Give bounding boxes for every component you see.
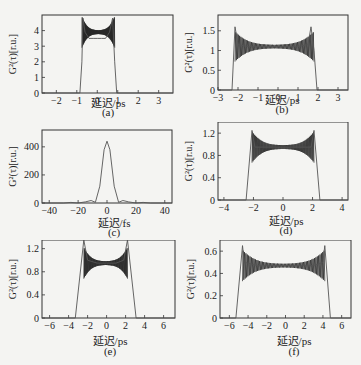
svg-text:3: 3 [336, 92, 341, 103]
svg-text:0: 0 [283, 320, 288, 331]
caption-a: (a) [78, 106, 138, 118]
svg-text:400: 400 [24, 141, 39, 152]
svg-text:4: 4 [340, 202, 345, 213]
svg-text:200: 200 [24, 169, 39, 180]
svg-text:6: 6 [161, 320, 166, 331]
svg-text:0: 0 [34, 313, 39, 324]
caption-e: (e) [80, 345, 140, 357]
svg-text:0: 0 [34, 198, 39, 209]
svg-text:1: 1 [34, 72, 39, 83]
svg-text:0.8: 0.8 [203, 150, 216, 161]
svg-text:−6: −6 [224, 320, 235, 331]
svg-text:0.2: 0.2 [205, 290, 218, 301]
svg-text:0.4: 0.4 [205, 268, 218, 279]
svg-text:−2: −2 [82, 320, 93, 331]
svg-text:−2: −2 [51, 95, 62, 106]
svg-text:4: 4 [320, 320, 325, 331]
panel-b: −3−2−1012300.511.5G²(τ)[r.u.] 延迟/ps (b) [180, 0, 361, 122]
svg-text:3: 3 [156, 95, 161, 106]
panel-d: −4−202400.40.81.2G²(τ)[r.u.] 延迟/ps (d) [180, 122, 361, 240]
svg-text:1.2: 1.2 [203, 128, 216, 139]
svg-text:1: 1 [210, 45, 215, 56]
svg-text:0.4: 0.4 [27, 289, 40, 300]
panel-a: −2−1012301234G²(τ)[r.u.] 延迟/ps (a) [0, 0, 180, 122]
svg-text:−4: −4 [219, 202, 230, 213]
svg-text:2: 2 [34, 56, 39, 67]
svg-text:2: 2 [123, 320, 128, 331]
svg-text:2: 2 [302, 320, 307, 331]
caption-b: (b) [252, 103, 312, 115]
svg-text:1.2: 1.2 [27, 243, 40, 254]
svg-text:0: 0 [210, 195, 215, 206]
panel-f: −6−4−2024600.20.40.6G²(τ)[r.u.] 延迟/ps (f… [180, 240, 361, 365]
svg-text:−2: −2 [261, 320, 272, 331]
svg-text:−4: −4 [63, 320, 74, 331]
svg-text:−4: −4 [243, 320, 254, 331]
svg-text:G²(τ)[r.u.]: G²(τ)[r.u.] [7, 34, 19, 74]
caption-c: (c) [84, 226, 144, 238]
caption-f: (f) [264, 345, 324, 357]
svg-text:0.5: 0.5 [203, 65, 216, 76]
svg-text:G²(τ)[r.u.]: G²(τ)[r.u.] [7, 259, 19, 299]
panel-e: −6−4−2024600.40.81.2G²(τ)[r.u.] 延迟/ps (e… [0, 240, 180, 365]
svg-text:0.4: 0.4 [203, 172, 216, 183]
svg-text:4: 4 [142, 320, 147, 331]
svg-text:40: 40 [160, 205, 170, 216]
svg-text:0: 0 [210, 85, 215, 96]
svg-text:G²(τ)[r.u.]: G²(τ)[r.u.] [185, 259, 197, 299]
svg-text:G²(τ)[r.u.]: G²(τ)[r.u.] [183, 141, 195, 181]
svg-text:G²(τ)[r.u.]: G²(τ)[r.u.] [183, 32, 195, 72]
svg-text:6: 6 [339, 320, 344, 331]
caption-d: (d) [256, 224, 316, 236]
svg-text:0.6: 0.6 [205, 246, 218, 257]
svg-text:0: 0 [212, 313, 217, 324]
svg-text:3: 3 [34, 41, 39, 52]
svg-text:G²(τ)[r.u.]: G²(τ)[r.u.] [7, 146, 19, 186]
svg-text:0.8: 0.8 [27, 266, 40, 277]
svg-text:4: 4 [34, 25, 39, 36]
svg-text:0: 0 [34, 88, 39, 99]
svg-text:−40: −40 [41, 205, 57, 216]
svg-text:1.5: 1.5 [203, 25, 216, 36]
svg-text:−6: −6 [44, 320, 55, 331]
svg-text:0: 0 [104, 320, 109, 331]
panel-c: −40−20020400200400G²(τ)[r.u.] 延迟/fs (c) [0, 122, 180, 240]
